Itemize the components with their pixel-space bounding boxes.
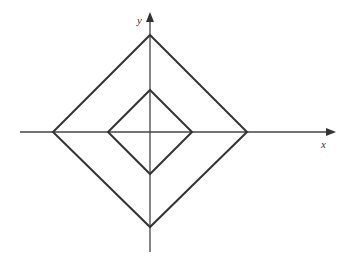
- y-axis-label: y: [136, 14, 142, 26]
- diagram-canvas: y x: [0, 0, 348, 264]
- x-axis-label: x: [320, 138, 326, 150]
